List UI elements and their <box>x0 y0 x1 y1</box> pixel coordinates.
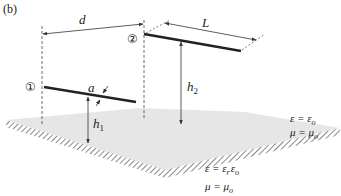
svg-text:ε = εrεo: ε = εrεo <box>205 162 239 177</box>
wire-2-marker: ② <box>127 32 138 46</box>
lower-medium-label: ε = εrεo μ = μo <box>204 162 239 195</box>
wire-1-marker: ① <box>25 80 36 94</box>
two-wire-over-ground-diagram: (b) d ② L h2 ① a h1 ε = εo μ = μo ε = εr… <box>0 0 341 196</box>
panel-label: (b) <box>3 2 17 16</box>
height-2-label: h2 <box>187 79 198 96</box>
radius-arrow-bottom <box>96 100 100 106</box>
length-dimension-arrow <box>165 23 256 40</box>
svg-text:μ = μo: μ = μo <box>204 180 233 195</box>
radius-arrow-top <box>103 86 108 93</box>
length-extension-left <box>146 20 170 33</box>
separation-label: d <box>79 12 86 27</box>
length-label: L <box>201 15 209 30</box>
length-extension-right <box>242 34 265 50</box>
wire-2 <box>144 34 241 51</box>
upper-medium-label: ε = εo μ = μo <box>289 112 318 141</box>
radius-label: a <box>88 80 95 95</box>
